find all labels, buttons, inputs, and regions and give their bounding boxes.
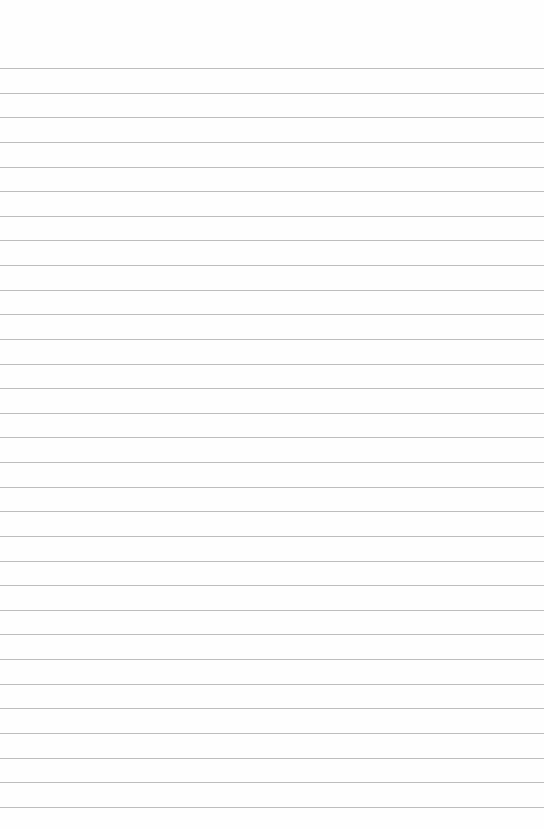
ruled-line xyxy=(0,265,544,266)
ruled-line xyxy=(0,561,544,562)
ruled-line xyxy=(0,807,544,808)
ruled-line xyxy=(0,167,544,168)
ruled-line xyxy=(0,117,544,118)
ruled-line xyxy=(0,191,544,192)
ruled-line xyxy=(0,364,544,365)
ruled-line xyxy=(0,733,544,734)
ruled-line xyxy=(0,339,544,340)
ruled-line xyxy=(0,462,544,463)
ruled-line xyxy=(0,536,544,537)
ruled-line xyxy=(0,437,544,438)
ruled-line xyxy=(0,634,544,635)
ruled-line xyxy=(0,290,544,291)
ruled-line xyxy=(0,240,544,241)
ruled-line xyxy=(0,388,544,389)
ruled-line xyxy=(0,413,544,414)
ruled-line xyxy=(0,511,544,512)
ruled-line xyxy=(0,708,544,709)
ruled-line xyxy=(0,93,544,94)
lined-paper-sheet xyxy=(0,0,544,829)
ruled-line xyxy=(0,314,544,315)
ruled-line xyxy=(0,782,544,783)
ruled-line xyxy=(0,659,544,660)
ruled-line xyxy=(0,585,544,586)
ruled-line xyxy=(0,610,544,611)
ruled-line xyxy=(0,142,544,143)
ruled-line xyxy=(0,68,544,69)
ruled-line xyxy=(0,758,544,759)
ruled-line xyxy=(0,487,544,488)
ruled-line xyxy=(0,216,544,217)
ruled-line xyxy=(0,684,544,685)
